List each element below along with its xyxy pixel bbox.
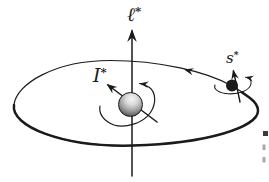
central-spin-label-star: * bbox=[101, 65, 107, 79]
satellite-body bbox=[226, 80, 238, 92]
orbit-axis-label: ℓ* bbox=[127, 5, 141, 24]
satellite-spin-label: s* bbox=[226, 50, 239, 66]
page-edge-artifacts bbox=[263, 131, 269, 163]
orbit-axis-label-star: * bbox=[135, 4, 141, 18]
diagram-svg bbox=[0, 0, 269, 182]
page-edge-artifact bbox=[263, 157, 266, 163]
orbit-axis-label-base: ℓ bbox=[127, 3, 135, 25]
satellite-spin-axis-arrowhead-icon bbox=[229, 69, 239, 80]
page-edge-artifact bbox=[263, 145, 266, 151]
satellite-spin-label-base: s bbox=[226, 49, 234, 67]
figure-canvas: ℓ* I* s* bbox=[0, 0, 269, 182]
central-body-sphere bbox=[118, 92, 143, 117]
satellite-spin-label-star: * bbox=[234, 49, 239, 60]
central-spin-label: I* bbox=[93, 66, 107, 85]
page-edge-artifact bbox=[263, 131, 268, 136]
central-spin-label-base: I bbox=[93, 64, 101, 86]
